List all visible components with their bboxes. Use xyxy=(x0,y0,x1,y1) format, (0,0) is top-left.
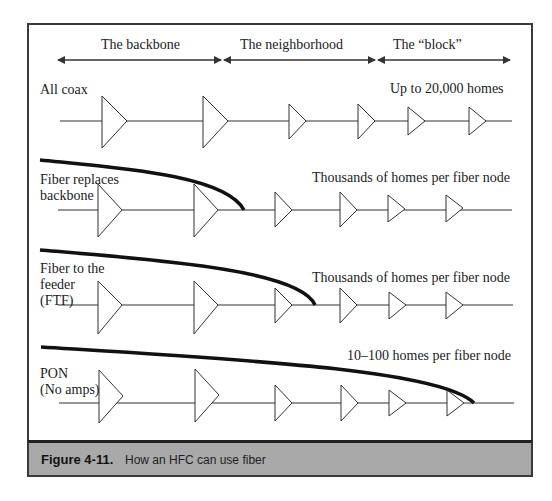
row-label-fiber-backbone-line2: backbone xyxy=(40,188,94,204)
amplifier-icon xyxy=(289,104,306,139)
row-note-ftf: Thousands of homes per fiber node xyxy=(312,270,510,286)
amplifier-icon xyxy=(194,281,218,334)
amplifier-icon xyxy=(341,385,358,421)
row-all-coax xyxy=(60,96,512,148)
amplifier-icon xyxy=(358,104,375,139)
row-label-pon-line2: (No amps) xyxy=(40,382,100,398)
row-label-all-coax: All coax xyxy=(40,82,88,98)
amplifier-icon xyxy=(408,107,425,135)
hfc-diagram xyxy=(0,0,552,501)
amplifier-icon xyxy=(275,385,292,421)
amplifier-icon xyxy=(275,288,292,323)
row-label-pon-line1: PON xyxy=(40,366,68,382)
amplifier-icon xyxy=(388,195,405,222)
amplifier-icon xyxy=(469,107,486,135)
amplifier-icon xyxy=(389,390,406,416)
amplifier-icon xyxy=(102,96,127,148)
amplifier-icon xyxy=(203,96,228,148)
figure-caption: How an HFC can use fiber xyxy=(125,453,266,467)
amplifier-icon xyxy=(275,192,292,227)
row-label-ftf-line2: feeder xyxy=(40,277,75,293)
amplifier-icon xyxy=(195,369,219,422)
amplifier-icon xyxy=(340,288,357,323)
section-label-neighborhood: The neighborhood xyxy=(240,37,343,53)
amplifier-icon xyxy=(98,184,122,237)
section-label-backbone: The backbone xyxy=(101,37,180,53)
figure-caption-bar: Figure 4-11. How an HFC can use fiber xyxy=(27,440,533,477)
row-note-pon: 10–100 homes per fiber node xyxy=(347,348,511,364)
amplifier-icon xyxy=(99,370,123,423)
row-label-fiber-backbone-line1: Fiber replaces xyxy=(40,172,119,188)
row-note-fiber-backbone: Thousands of homes per fiber node xyxy=(312,170,510,186)
row-note-all-coax: Up to 20,000 homes xyxy=(390,81,504,97)
row-label-ftf-line1: Fiber to the xyxy=(40,261,105,277)
figure-number: Figure 4-11. xyxy=(41,452,113,467)
amplifier-icon xyxy=(340,192,357,227)
row-label-ftf-line3: (FTF) xyxy=(40,293,73,309)
amplifier-icon xyxy=(194,184,218,237)
section-label-block: The “block” xyxy=(393,37,462,53)
fiber-line xyxy=(40,250,315,305)
amplifier-icon xyxy=(446,195,463,222)
amplifier-icon xyxy=(446,292,463,319)
amplifier-icon xyxy=(98,281,122,334)
row-fiber-feeder xyxy=(40,250,513,334)
amplifier-icon xyxy=(389,292,406,319)
